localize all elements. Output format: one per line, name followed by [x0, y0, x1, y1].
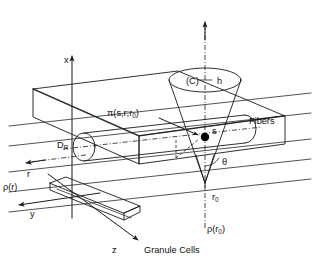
point-s-marker [201, 133, 209, 141]
z-axis-label: z [112, 245, 117, 255]
figure-root: x r ρ(r) y z Granule Cells DR (C) h s θ … [0, 0, 317, 268]
rho-r-label: ρ(r) [3, 182, 17, 192]
pi-function-label: π(s,r;r0) [107, 108, 139, 119]
y-axis-label: y [30, 209, 35, 219]
rho-r-zero-label: ρ(r0) [207, 224, 225, 235]
fibers-label: Fibers [249, 116, 275, 126]
geometry-diagram: x r ρ(r) y z Granule Cells DR (C) h s θ … [0, 0, 317, 268]
point-s-label: s [212, 126, 217, 136]
x-axis-label: x [64, 55, 69, 65]
theta-label: θ [222, 157, 227, 167]
d-r-label: DR [57, 140, 69, 151]
cone-set-label: (C) [186, 76, 199, 86]
r-axis-label: r [27, 169, 30, 179]
granule-cells-label: Granule Cells [144, 245, 200, 255]
r-axis [26, 155, 86, 163]
r-zero-label: r0 [212, 192, 219, 203]
cone-height-label: h [217, 76, 222, 86]
